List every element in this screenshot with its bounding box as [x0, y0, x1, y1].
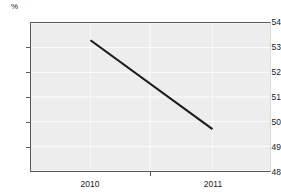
x-axis-tick-label: 2011: [193, 179, 233, 189]
x-axis-tick-label: 2010: [70, 179, 110, 189]
x-axis-tick-mark: [150, 172, 151, 176]
line-chart: % 54535251504948 20102011: [0, 0, 281, 194]
x-axis: 20102011: [0, 0, 281, 194]
